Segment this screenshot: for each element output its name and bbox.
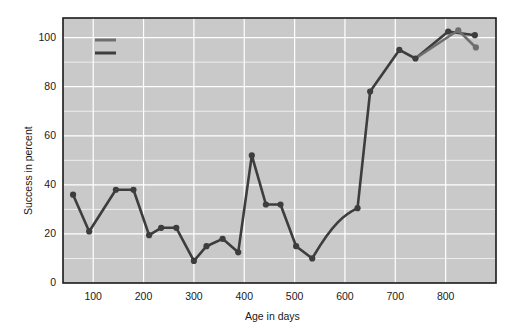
data-point-hilton xyxy=(113,187,119,193)
data-point-hilton xyxy=(445,28,451,34)
data-point-hilton xyxy=(70,192,76,198)
data-point-hilton xyxy=(293,243,299,249)
data-point-hilton xyxy=(203,243,209,249)
data-point-hilton xyxy=(277,201,283,207)
data-point-hilton xyxy=(309,255,315,261)
data-point-hilton xyxy=(130,187,136,193)
data-point-hilton xyxy=(191,258,197,264)
data-point-hilton xyxy=(396,47,402,53)
data-point-hugh xyxy=(455,27,461,33)
chart-figure: Success in percent Age in days 020406080… xyxy=(0,0,521,334)
plot-area xyxy=(0,0,521,334)
data-point-hilton xyxy=(263,201,269,207)
data-point-hilton xyxy=(249,152,255,158)
data-point-hilton xyxy=(220,236,226,242)
data-point-hilton xyxy=(235,249,241,255)
data-point-hilton xyxy=(86,228,92,234)
data-point-hilton xyxy=(412,55,418,61)
data-point-hilton xyxy=(354,205,360,211)
data-point-hugh xyxy=(473,44,479,50)
data-point-hilton xyxy=(158,225,164,231)
data-point-hilton xyxy=(146,232,152,238)
data-point-hilton xyxy=(367,89,373,95)
data-point-hilton xyxy=(472,32,478,38)
data-point-hilton xyxy=(173,225,179,231)
plot-background xyxy=(63,18,496,283)
